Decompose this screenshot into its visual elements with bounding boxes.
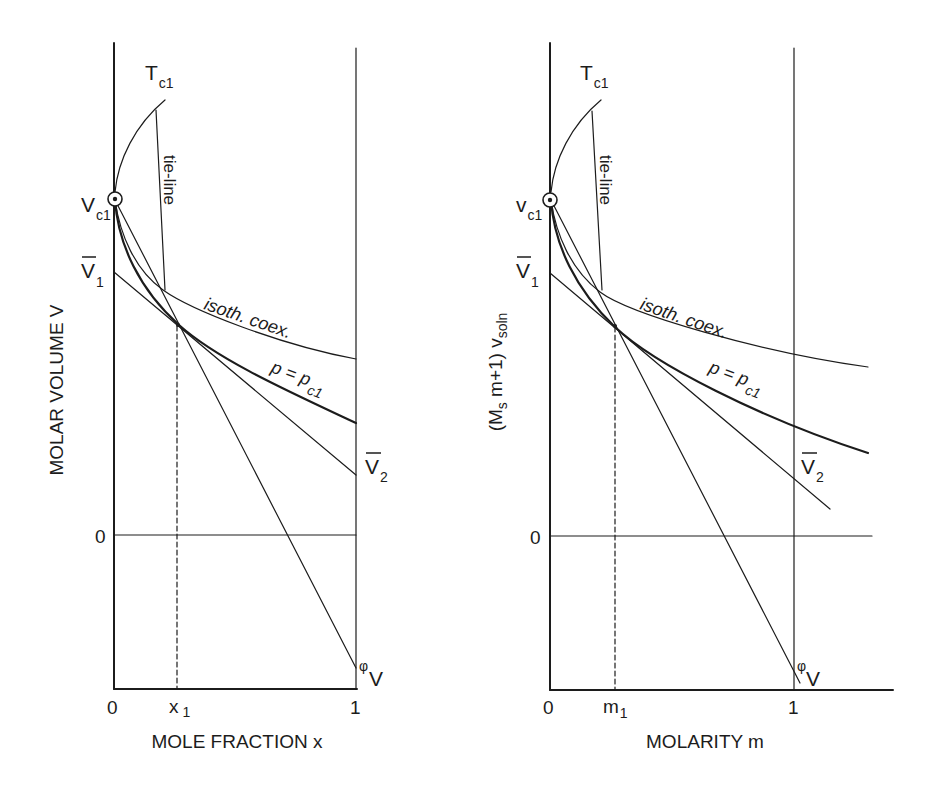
right-phi-v-line [551, 200, 800, 683]
right-x-axis-label: MOLARITY m [646, 731, 764, 752]
left-phi-v-line [115, 200, 356, 668]
left-v2bar-label: V2 [365, 455, 388, 485]
right-isoth-coex-label: isoth. coex. [638, 294, 731, 343]
left-y-zero-tick: 0 [95, 526, 106, 547]
right-v2bar-label: V2 [801, 455, 824, 485]
right-panel: Tc1 vc1 V1 V2 tie-line isoth. coex. p = … [485, 43, 893, 752]
right-critical-isobar-label: p = pc1 [703, 357, 766, 402]
left-phi-superscript: φ [359, 658, 368, 674]
right-x-one-tick: 1 [788, 697, 799, 718]
right-tangent-line [550, 273, 830, 509]
right-v1bar-label: V1 [516, 259, 539, 290]
right-y-zero-tick: 0 [530, 527, 541, 548]
left-x-one-tick: 1 [350, 697, 361, 718]
left-tc1-label: Tc1 [145, 61, 174, 91]
left-x1-tick: x1 [169, 696, 191, 720]
right-critical-point-dot [548, 198, 552, 202]
left-panel: Tc1 Vc1 V1 V2 tie-line isoth. coex. p = … [46, 43, 388, 752]
right-y-axis-label: (Ms m+1) vsoln [485, 313, 510, 432]
right-m1-tick: m1 [603, 696, 628, 721]
left-isoth-coex-curve [115, 200, 356, 359]
left-isoth-coex-label: isoth. coex. [202, 294, 295, 343]
left-x-axis-label: MOLE FRACTION x [151, 731, 323, 752]
right-x-zero-tick: 0 [543, 697, 554, 718]
left-y-axis-label: MOLAR VOLUME V [46, 304, 67, 475]
right-tc1-label: Tc1 [580, 61, 609, 91]
left-critical-point-dot [113, 197, 117, 201]
left-phi-v-label: V [369, 667, 383, 690]
right-phi-v-label: V [806, 667, 820, 690]
right-phi-superscript: φ [797, 658, 806, 674]
left-tie-line-label: tie-line [160, 155, 179, 205]
left-x-zero-tick: 0 [107, 697, 118, 718]
right-tie-line-label: tie-line [596, 155, 615, 205]
left-vc1-label: Vc1 [81, 193, 111, 223]
left-tangent-point [176, 323, 180, 327]
right-tangent-point [613, 324, 617, 328]
right-vc1-label: vc1 [516, 193, 543, 223]
molar-volume-diagram: Tc1 Vc1 V1 V2 tie-line isoth. coex. p = … [0, 0, 925, 788]
left-v1bar-label: V1 [81, 259, 104, 290]
